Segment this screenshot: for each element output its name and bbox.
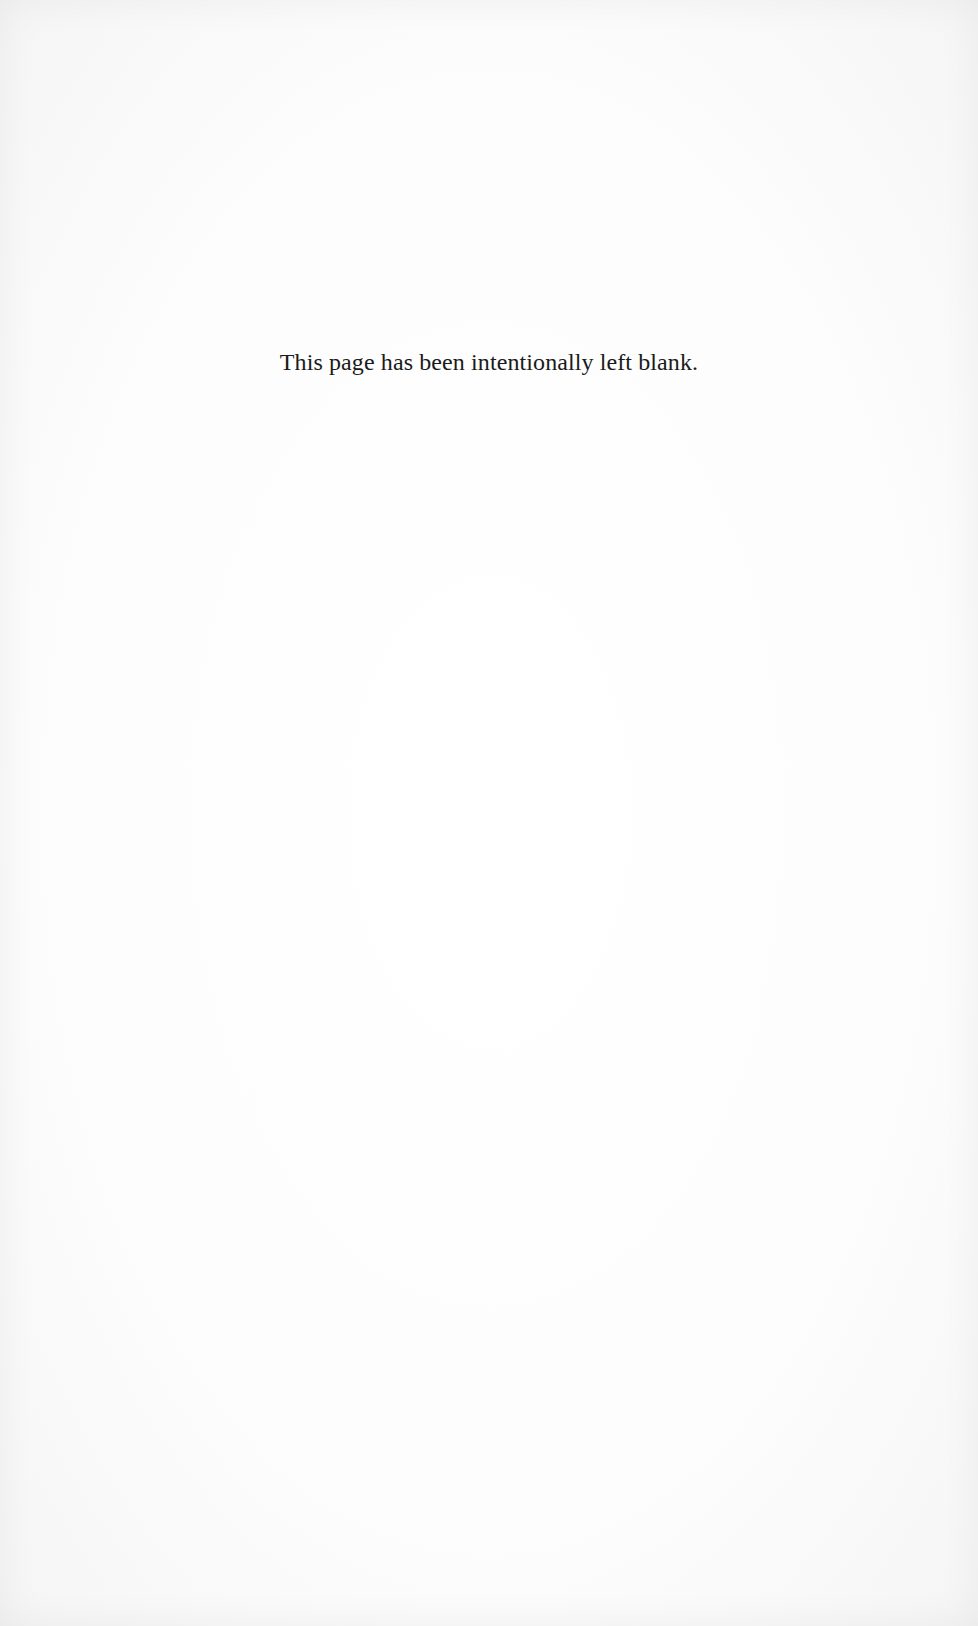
blank-page-notice: This page has been intentionally left bl… (0, 350, 978, 374)
document-page: This page has been intentionally left bl… (0, 0, 978, 1626)
